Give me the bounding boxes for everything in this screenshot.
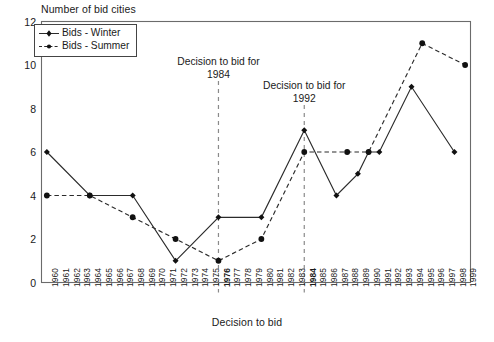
data-point-Bids - Winter-1994 [409, 84, 415, 90]
x-tick-1969: 1969 [147, 267, 157, 286]
x-tick-1986: 1986 [329, 267, 339, 286]
x-tick-1980: 1980 [265, 267, 275, 286]
x-tick-1961: 1961 [61, 267, 71, 286]
x-tick-1985: 1985 [318, 267, 328, 286]
x-tick-1981: 1981 [275, 267, 285, 286]
chart-legend: Bids - Winter Bids - Summer [34, 24, 137, 57]
y-tick-2: 2 [10, 233, 36, 245]
x-tick-1978: 1978 [243, 267, 253, 286]
data-point-Bids - Winter-1984 [301, 127, 307, 133]
data-point-Bids - Summer-1999 [462, 62, 468, 68]
x-tick-1999: 1999 [468, 267, 478, 286]
x-tick-1976: 1976 [222, 267, 232, 286]
legend-label-summer: Bids - Summer [62, 41, 129, 51]
x-tick-1975: 1975 [211, 267, 221, 286]
series-line-Bids - Winter [47, 87, 455, 261]
annot-1984: Decision to bid for1984 [138, 55, 298, 81]
y-tick-10: 10 [10, 59, 36, 71]
x-tick-1962: 1962 [72, 267, 82, 286]
x-tick-1965: 1965 [104, 267, 114, 286]
x-tick-1966: 1966 [115, 267, 125, 286]
legend-key-summer-icon [39, 41, 59, 52]
x-tick-1983: 1983 [297, 267, 307, 286]
data-point-Bids - Winter-1980 [258, 214, 264, 220]
x-tick-1977: 1977 [232, 267, 242, 286]
data-point-Bids - Summer-1972 [173, 236, 179, 242]
y-tick-8: 8 [10, 103, 36, 115]
y-axis-title: Number of bid cities [41, 3, 136, 15]
data-point-Bids - Summer-1984 [301, 149, 307, 155]
x-tick-1971: 1971 [168, 267, 178, 286]
data-point-Bids - Summer-1995 [419, 40, 425, 46]
x-axis-title: Decision to bid [0, 316, 494, 328]
annot-1992: Decision to bid for1992 [224, 79, 384, 105]
bid-cities-chart: Number of bid cities Decision to bid 024… [0, 0, 494, 342]
x-tick-1993: 1993 [404, 267, 414, 286]
x-tick-1973: 1973 [190, 267, 200, 286]
x-tick-1982: 1982 [286, 267, 296, 286]
x-tick-1964: 1964 [93, 267, 103, 286]
data-point-Bids - Summer-1980 [258, 236, 264, 242]
x-tick-1987: 1987 [340, 267, 350, 286]
x-tick-1970: 1970 [157, 267, 167, 286]
annot-1992-line1: Decision to bid for [224, 79, 384, 92]
data-point-Bids - Summer-1976 [216, 258, 222, 264]
x-tick-1995: 1995 [426, 267, 436, 286]
data-point-Bids - Winter-1998 [451, 149, 457, 155]
x-tick-1997: 1997 [447, 267, 457, 286]
data-point-Bids - Summer-1990 [366, 149, 372, 155]
x-tick-1989: 1989 [361, 267, 371, 286]
data-point-Bids - Summer-1988 [344, 149, 350, 155]
x-tick-1988: 1988 [350, 267, 360, 286]
x-tick-1994: 1994 [415, 267, 425, 286]
y-tick-0: 0 [10, 277, 36, 289]
x-tick-1974: 1974 [200, 267, 210, 286]
x-tick-1984: 1984 [308, 267, 318, 286]
data-point-Bids - Summer-1964 [87, 193, 93, 199]
x-tick-1992: 1992 [393, 267, 403, 286]
x-tick-1998: 1998 [458, 267, 468, 286]
x-tick-1990: 1990 [372, 267, 382, 286]
annot-1984-line1: Decision to bid for [138, 55, 298, 68]
legend-label-winter: Bids - Winter [62, 28, 120, 38]
data-point-Bids - Summer-1960 [44, 193, 50, 199]
legend-key-winter-icon [39, 28, 59, 39]
annot-1992-line2: 1992 [224, 92, 384, 105]
x-tick-1972: 1972 [179, 267, 189, 286]
x-tick-1963: 1963 [82, 267, 92, 286]
data-point-Bids - Winter-1991 [376, 149, 382, 155]
y-tick-6: 6 [10, 146, 36, 158]
legend-item-winter: Bids - Winter [39, 27, 129, 40]
y-tick-4: 4 [10, 190, 36, 202]
x-tick-1996: 1996 [436, 267, 446, 286]
x-tick-1960: 1960 [50, 267, 60, 286]
y-tick-12: 12 [10, 16, 36, 28]
x-tick-1967: 1967 [125, 267, 135, 286]
x-tick-1979: 1979 [254, 267, 264, 286]
data-point-Bids - Summer-1968 [130, 214, 136, 220]
x-tick-1991: 1991 [383, 267, 393, 286]
x-tick-1968: 1968 [136, 267, 146, 286]
legend-item-summer: Bids - Summer [39, 40, 129, 53]
